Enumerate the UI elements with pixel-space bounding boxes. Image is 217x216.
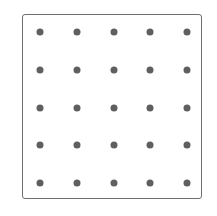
grid-dot[interactable]: [184, 29, 191, 36]
grid-dot[interactable]: [37, 29, 44, 36]
grid-dot[interactable]: [74, 67, 81, 74]
grid-dot[interactable]: [37, 180, 44, 187]
grid-dot[interactable]: [37, 105, 44, 112]
grid-dot[interactable]: [111, 180, 118, 187]
grid-dot[interactable]: [147, 105, 154, 112]
grid-dot[interactable]: [184, 105, 191, 112]
grid-dot[interactable]: [184, 180, 191, 187]
grid-dot[interactable]: [74, 180, 81, 187]
grid-dot[interactable]: [147, 29, 154, 36]
grid-dot[interactable]: [184, 67, 191, 74]
grid-dot[interactable]: [37, 142, 44, 149]
grid-dot[interactable]: [74, 105, 81, 112]
grid-dot[interactable]: [184, 142, 191, 149]
grid-dot[interactable]: [37, 67, 44, 74]
grid-dot[interactable]: [74, 142, 81, 149]
grid-dot[interactable]: [147, 142, 154, 149]
grid-dot[interactable]: [111, 67, 118, 74]
grid-dot[interactable]: [111, 29, 118, 36]
grid-dot[interactable]: [111, 105, 118, 112]
grid-dot[interactable]: [74, 29, 81, 36]
grid-dot[interactable]: [147, 180, 154, 187]
grid-dot[interactable]: [111, 142, 118, 149]
grid-dot[interactable]: [147, 67, 154, 74]
